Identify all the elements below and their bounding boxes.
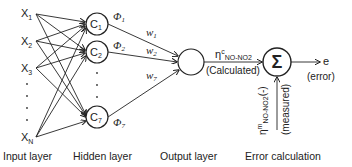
caption-error-calculation: Error calculation: [245, 150, 321, 162]
hidden-output-connections: [108, 24, 179, 117]
caption-hidden-layer: Hidden layer: [73, 150, 132, 162]
measured-label: ηmNO-NO2(-): [256, 86, 269, 135]
measured-note: (measured): [280, 84, 291, 135]
input-labels: X1 X2 X3 XN: [21, 7, 33, 145]
input-xn: XN: [21, 131, 33, 145]
svg-text:Φ2: Φ2: [113, 39, 125, 53]
error-e-label: e: [323, 55, 329, 67]
svg-text:w1: w1: [146, 26, 157, 40]
input-hidden-connections: [36, 14, 86, 137]
output-node: [178, 49, 204, 75]
svg-text:(measured): (measured): [280, 84, 291, 135]
calculated-note: (Calculated): [206, 65, 260, 76]
svg-text:Φ1: Φ1: [113, 10, 125, 24]
caption-input-layer: Input layer: [3, 150, 53, 162]
input-x2: X2: [21, 35, 32, 49]
error-note: (error): [307, 71, 335, 82]
input-ellipsis: [26, 83, 28, 121]
input-x3: X3: [21, 62, 32, 76]
svg-text:w7: w7: [146, 69, 157, 83]
weight-labels: w1 w2 w7: [146, 26, 157, 83]
hidden-ellipsis: [96, 72, 98, 98]
neural-network-diagram: X1 X2 X3 XN C1 C2 C7 Φ1 Φ2 Φ7 w1 w2 w7 η…: [0, 0, 352, 167]
svg-text:ηmNO-NO2(-): ηmNO-NO2(-): [256, 86, 269, 135]
layer-captions: Input layer Hidden layer Output layer Er…: [3, 150, 321, 162]
input-x1: X1: [21, 7, 32, 21]
sigma-symbol: Σ: [272, 52, 283, 72]
svg-text:Φ7: Φ7: [113, 116, 125, 130]
eta-calculated-label: ηcNO-NO2: [215, 48, 252, 61]
caption-output-layer: Output layer: [160, 150, 218, 162]
